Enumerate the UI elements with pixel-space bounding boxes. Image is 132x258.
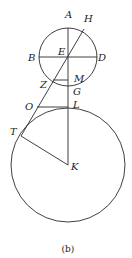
label-m: M bbox=[73, 73, 85, 84]
line-t-k bbox=[21, 136, 68, 165]
label-a: A bbox=[64, 9, 72, 20]
label-z: Z bbox=[39, 79, 48, 90]
label-d: D bbox=[97, 52, 106, 63]
geometry-diagram: A H B E D Z M G O L T K (b) bbox=[0, 0, 132, 258]
figure-caption: (b) bbox=[62, 244, 75, 254]
label-t: T bbox=[10, 126, 18, 137]
label-h: H bbox=[83, 13, 93, 24]
label-l: L bbox=[72, 99, 80, 110]
label-k: K bbox=[70, 161, 79, 172]
label-b: B bbox=[27, 52, 35, 63]
label-g: G bbox=[73, 86, 81, 97]
label-e: E bbox=[57, 46, 66, 57]
label-o: O bbox=[25, 101, 33, 112]
